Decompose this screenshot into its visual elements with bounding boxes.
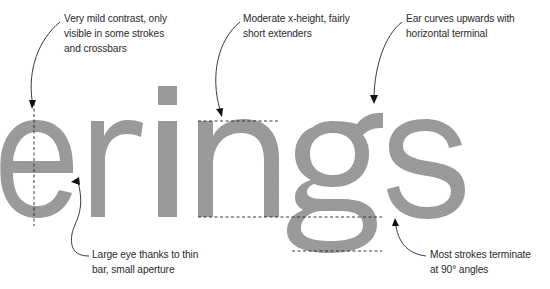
- arrow-ear: [374, 22, 402, 96]
- type-specimen-diagram: Very mild contrast, only visible in some…: [0, 0, 550, 289]
- annotation-contrast: Very mild contrast, only visible in some…: [64, 11, 167, 56]
- glyph-i: [158, 86, 177, 217]
- glyph-n: [198, 119, 279, 217]
- arrow-eye: [71, 182, 89, 256]
- arrow-contrast: [31, 22, 60, 100]
- glyph-g: [287, 113, 383, 253]
- annotation-eye: Large eye thanks to thin bar, small aper…: [92, 247, 198, 277]
- glyph-s: [387, 119, 465, 219]
- glyph-e: [0, 115, 73, 223]
- arrow-terminals: [396, 226, 426, 256]
- glyph-r: [91, 120, 143, 217]
- annotation-x-height: Moderate x-height, fairly short extender…: [243, 11, 350, 41]
- arrow-x-height: [216, 22, 240, 110]
- annotation-ear: Ear curves upwards with horizontal termi…: [406, 11, 515, 41]
- annotation-terminals: Most strokes terminate at 90° angles: [430, 247, 531, 277]
